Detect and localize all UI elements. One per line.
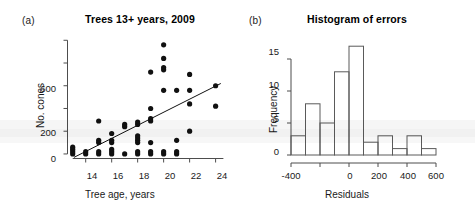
histogram-bars (291, 46, 436, 155)
scatter-regression-line (74, 83, 221, 157)
histogram-bar (335, 72, 350, 155)
scatter-point (148, 106, 153, 111)
scatter-point (187, 129, 192, 134)
scatter-point (83, 149, 88, 154)
scatter-point (96, 149, 101, 154)
scatter-point (109, 131, 114, 136)
scatter-point (122, 151, 127, 156)
scatter-point (174, 88, 179, 93)
scatter-point (148, 149, 153, 154)
scatter-point (135, 149, 140, 154)
scatter-point (174, 138, 179, 143)
scatter-point (70, 145, 75, 150)
scatter-point (148, 140, 153, 145)
histogram-bar (291, 136, 306, 155)
scatter-point (161, 88, 166, 93)
scatter-point (109, 138, 114, 143)
histogram-bar (364, 142, 379, 155)
scatter-point (135, 133, 140, 138)
scatter-point (96, 118, 101, 123)
scatter-point (174, 149, 179, 154)
scatter-point (161, 65, 166, 70)
scatter-axes (64, 40, 224, 162)
histogram-bar (349, 46, 364, 155)
scatter-point (135, 120, 140, 125)
scatter-point (187, 101, 192, 106)
panel-scatter: (a) Trees 13+ years, 2009 No. cones Tree… (0, 0, 237, 218)
scatter-point (161, 56, 166, 61)
histogram-plot-canvas (237, 0, 475, 218)
histogram-bar (320, 123, 335, 155)
histogram-bar (378, 136, 393, 155)
scatter-point (187, 72, 192, 77)
scatter-point (213, 83, 218, 88)
figure-root: (a) Trees 13+ years, 2009 No. cones Tree… (0, 0, 475, 218)
panel-histogram: (b) Histogram of errors Frequency Residu… (237, 0, 475, 218)
scatter-point (213, 104, 218, 109)
scatter-point (161, 42, 166, 47)
histogram-bar (306, 104, 321, 155)
scatter-point (187, 88, 192, 93)
histogram-axes (287, 59, 436, 167)
histogram-bar (407, 136, 422, 155)
scatter-point (109, 147, 114, 152)
scatter-point (148, 70, 153, 75)
scatter-point (161, 149, 166, 154)
scatter-point (96, 138, 101, 143)
scatter-points (70, 42, 218, 156)
scatter-point (148, 116, 153, 121)
histogram-bar (422, 149, 437, 155)
histogram-bar (393, 149, 408, 155)
scatter-plot-canvas (0, 0, 237, 218)
scatter-point (122, 122, 127, 127)
